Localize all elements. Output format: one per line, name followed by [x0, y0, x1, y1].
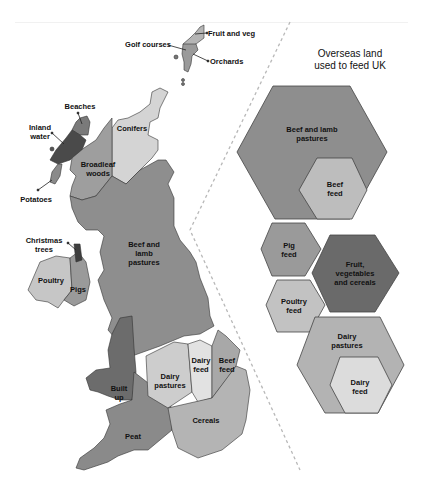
label-fruit-and-veg: Fruit and veg — [208, 29, 268, 38]
label-inland-water: Inland water — [22, 123, 58, 141]
label-built-up: Built up — [104, 384, 134, 402]
label-uk-beef-feed: Beef feed — [214, 356, 240, 374]
label-conifers: Conifers — [112, 124, 152, 133]
region-orchards — [182, 44, 198, 72]
label-uk-dairy-feed: Dairy feed — [188, 356, 214, 374]
mainland — [70, 88, 250, 470]
hex-label-beef-lamb-pastures: Beef and lamb pastures — [272, 125, 352, 143]
label-poultry: Poultry — [36, 276, 66, 285]
label-peat: Peat — [118, 432, 148, 441]
label-christmas-trees: Christmas trees — [24, 236, 64, 254]
hex-label-dairy-feed: Dairy feed — [340, 378, 380, 396]
hex-label-fruit-veg-cereals: Fruit, vegetables and cereals — [325, 260, 385, 287]
label-orchards: Orchards — [210, 57, 260, 66]
label-broadleaf-woods: Broadleaf woods — [76, 160, 120, 178]
hex-label-beef-feed: Beef feed — [315, 180, 355, 198]
shetland — [174, 25, 204, 86]
label-pigs: Pigs — [68, 285, 88, 294]
label-cereals: Cereals — [186, 416, 226, 425]
region-potatoes — [50, 164, 62, 184]
label-potatoes: Potatoes — [16, 195, 56, 204]
label-beaches: Beaches — [60, 102, 100, 111]
label-golf-courses: Golf courses — [118, 40, 178, 49]
label-uk-dairy-pastures: Dairy pastures — [150, 372, 190, 390]
hex-label-dairy-pastures: Dairy pastures — [322, 332, 372, 350]
overseas-title: Overseas land used to feed UK — [295, 48, 405, 72]
hex-label-poultry-feed: Poultry feed — [274, 297, 314, 315]
hex-label-pig-feed: Pig feed — [271, 241, 307, 259]
label-beef-and-lamb-pastures: Beef and lamb pastures — [122, 240, 166, 267]
